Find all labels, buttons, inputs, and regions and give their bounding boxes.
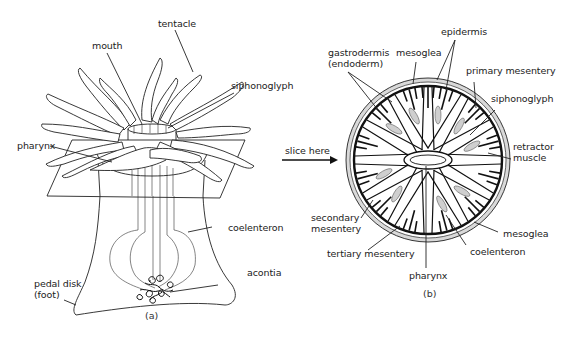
label-retractor-line2: muscle: [513, 152, 554, 163]
label-tentacle: tentacle: [158, 18, 196, 29]
label-gastrodermis: gastrodermis (endoderm): [328, 47, 389, 69]
caption-b: (b): [423, 288, 436, 299]
label-pedal-disk-line2: (foot): [34, 289, 82, 300]
label-mesoglea-top: mesoglea: [396, 47, 441, 58]
label-gastrodermis-line2: (endoderm): [328, 58, 389, 69]
slice-arrow: [282, 156, 338, 164]
label-coelenteron-b: coelenteron: [470, 246, 525, 257]
label-retractor-muscle: retractor muscle: [513, 141, 554, 163]
label-pedal-disk-line1: pedal disk: [34, 278, 82, 289]
label-secondary-line1: secondary: [311, 212, 361, 223]
label-gastrodermis-line1: gastrodermis: [328, 47, 389, 58]
label-siphonoglyph-b: siphonoglyph: [491, 93, 553, 104]
label-siphonoglyph-a: siphonoglyph: [231, 80, 293, 91]
label-slice-here: slice here: [285, 145, 330, 156]
label-coelenteron-a: coelenteron: [228, 222, 283, 233]
label-pharynx-b: pharynx: [409, 270, 447, 281]
anemone-body: [42, 30, 254, 315]
label-secondary-line2: mesentery: [311, 223, 361, 234]
label-retractor-line1: retractor: [513, 141, 554, 152]
sea-anemone-figure: tentacle mouth siphonoglyph pharynx coel…: [0, 0, 562, 342]
label-pedal-disk: pedal disk (foot): [34, 278, 82, 300]
caption-a: (a): [145, 310, 158, 321]
label-mesoglea-bottom: mesoglea: [503, 228, 548, 239]
label-epidermis: epidermis: [441, 26, 487, 37]
label-primary-mesentery: primary mesentery: [466, 65, 556, 76]
cross-section: [346, 78, 510, 242]
tentacles: [42, 58, 254, 182]
label-pharynx-a: pharynx: [17, 140, 55, 151]
label-acontia: acontia: [247, 267, 281, 278]
label-tertiary-mesentery: tertiary mesentery: [327, 248, 414, 259]
label-mouth: mouth: [92, 40, 122, 51]
diagram-drawing: [0, 0, 562, 342]
label-secondary-mesentery: secondary mesentery: [311, 212, 361, 234]
